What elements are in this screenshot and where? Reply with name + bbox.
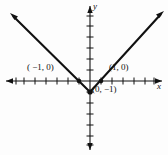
point-marker-one-zero	[99, 79, 104, 84]
y-axis-arrow-down-icon	[87, 143, 92, 150]
coordinate-plane	[0, 0, 168, 155]
point-label-neg-one-zero: ( −1, 0)	[27, 63, 54, 72]
point-marker-neg-one-zero	[77, 79, 82, 84]
y-axis-arrow-up-icon	[87, 6, 92, 13]
x-axis-arrow-left-icon	[6, 78, 13, 83]
y-axis-label: y	[93, 2, 97, 11]
point-label-one-zero: (1, 0)	[109, 63, 129, 72]
graph-figure: ( −1, 0) (1, 0) (0, −1) x y	[0, 0, 168, 155]
x-axis-label: x	[157, 82, 161, 91]
point-label-zero-neg-one: (0, −1)	[92, 85, 117, 94]
